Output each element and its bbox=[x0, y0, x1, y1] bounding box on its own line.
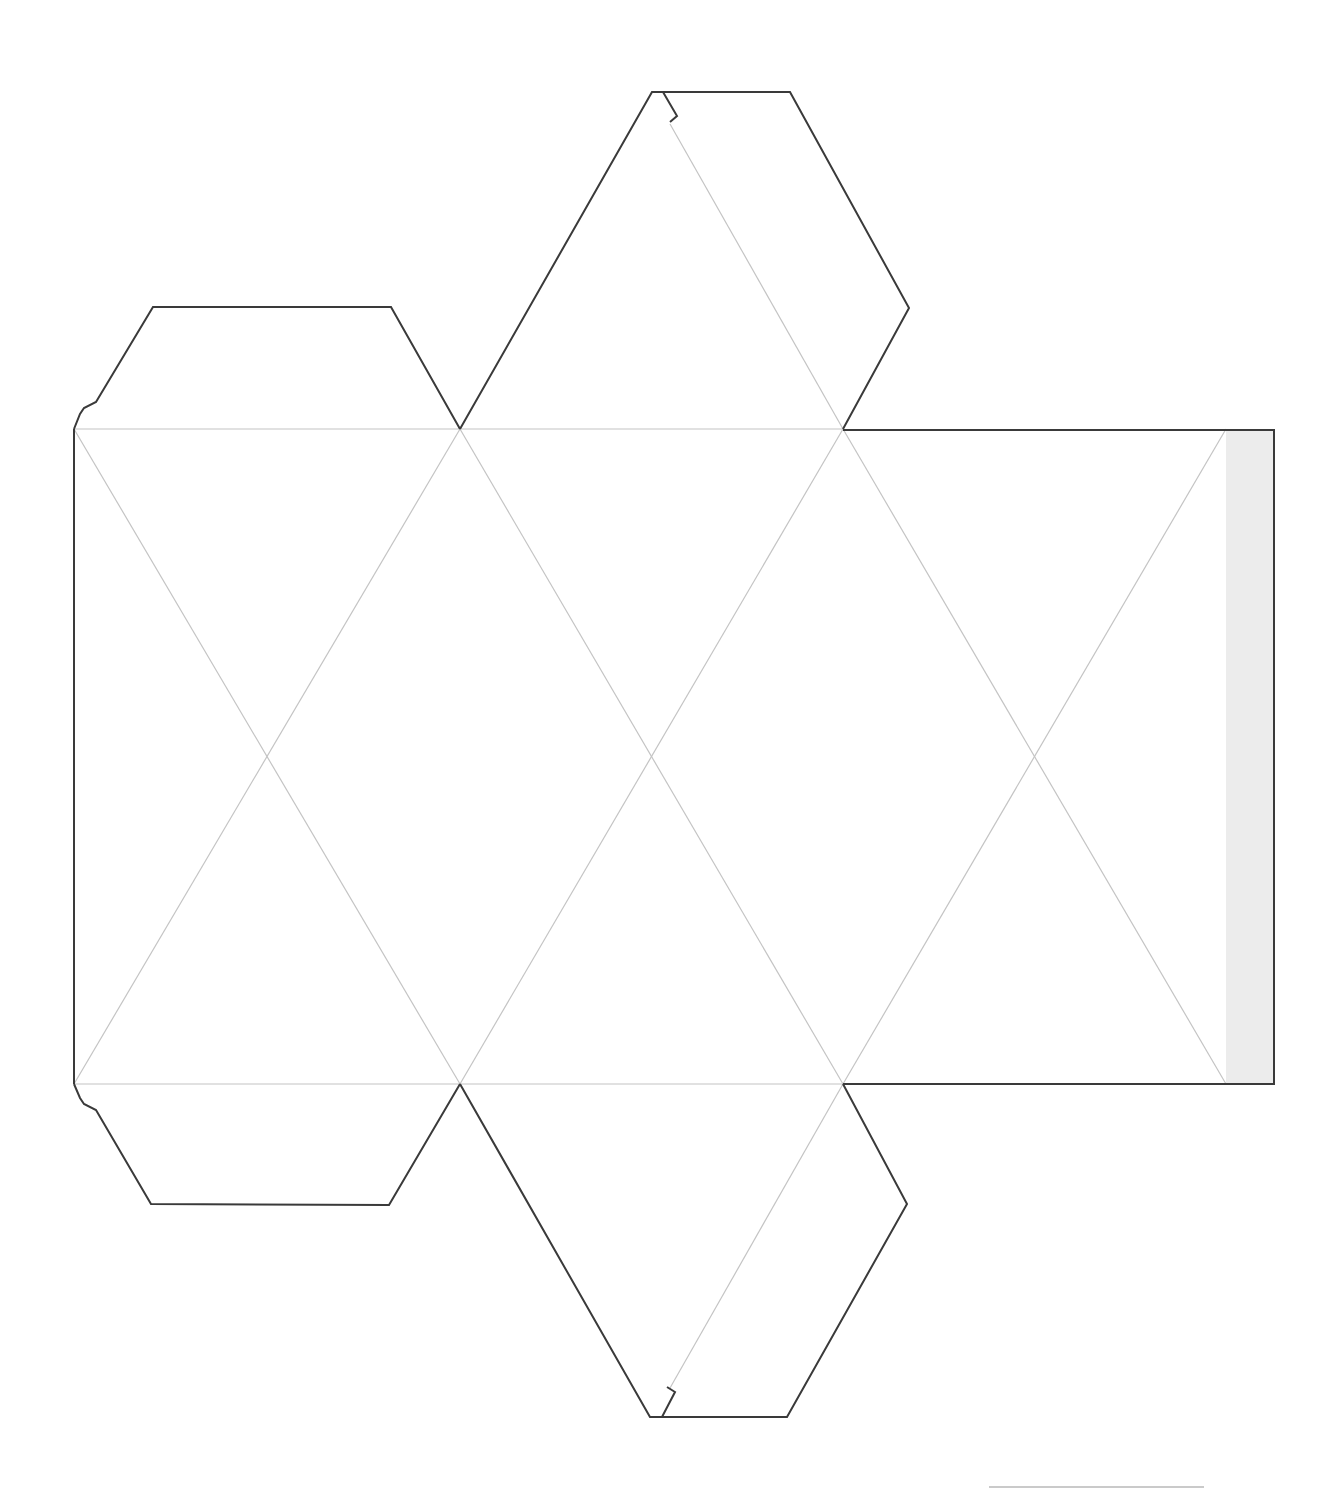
cut-bottom-left-flap bbox=[74, 1084, 460, 1205]
cut-top-notch bbox=[663, 92, 677, 122]
cut-lines bbox=[74, 92, 1274, 1417]
cut-top-left-flap bbox=[74, 307, 460, 429]
fold-bottom-tab bbox=[670, 1084, 843, 1388]
fold-lines bbox=[74, 124, 1226, 1388]
paper-net-diagram bbox=[0, 0, 1343, 1496]
fold-top-tab bbox=[670, 124, 843, 429]
cut-bottom-center-flap bbox=[460, 1084, 907, 1417]
cut-top-center-flap bbox=[460, 92, 909, 429]
cut-right-section bbox=[843, 430, 1274, 1084]
cut-bottom-notch bbox=[662, 1387, 675, 1417]
glue-strip bbox=[1226, 430, 1274, 1084]
